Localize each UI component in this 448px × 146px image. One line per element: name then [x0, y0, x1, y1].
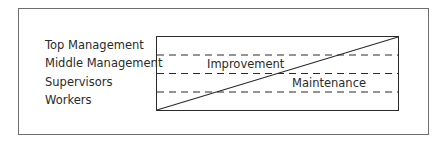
improvement-maintenance-diagram: Improvement Maintenance: [0, 0, 448, 146]
region-label-improvement: Improvement: [207, 57, 285, 71]
region-label-maintenance: Maintenance: [292, 76, 366, 90]
